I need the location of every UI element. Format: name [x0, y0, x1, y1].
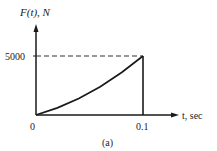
figure-caption: (a) — [102, 137, 113, 149]
force-time-chart: F(t), N 5000 0 0.1 t, sec (a) — [0, 0, 217, 151]
y-tick-label-5000: 5000 — [5, 51, 25, 62]
x-axis-label: t, sec — [182, 110, 203, 121]
y-axis-arrow-icon — [34, 24, 39, 32]
y-axis-label: F(t), N — [19, 6, 51, 19]
x-tick-label-0.1: 0.1 — [136, 121, 149, 132]
x-tick-label-0: 0 — [30, 121, 35, 132]
force-curve — [36, 56, 143, 115]
x-axis-arrow-icon — [171, 113, 179, 118]
